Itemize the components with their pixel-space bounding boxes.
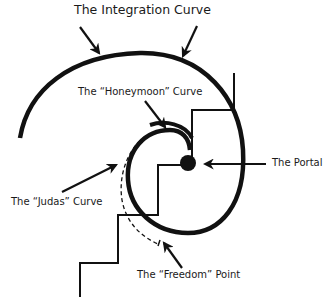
arrow-integration-left (80, 27, 99, 53)
diagram-graphics (0, 0, 332, 307)
label-judas-curve: The “Judas” Curve (11, 196, 102, 207)
diagram-title: The Integration Curve (74, 2, 211, 17)
label-honeymoon-curve: The “Honeymoon” Curve (78, 86, 202, 97)
freedom-point-marker (158, 240, 160, 246)
portal-dot (180, 155, 196, 171)
label-portal: The Portal (272, 157, 323, 168)
arrow-freedom (164, 243, 182, 268)
label-freedom-point: The “Freedom” Point (137, 269, 240, 280)
arrow-judas (62, 165, 116, 192)
judas-curve-dashed (121, 136, 158, 244)
arrow-integration-right (183, 26, 197, 56)
diagram-canvas: The Integration Curve The “Honeymoon” Cu… (0, 0, 332, 307)
